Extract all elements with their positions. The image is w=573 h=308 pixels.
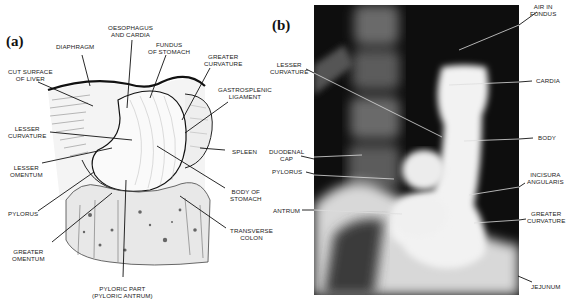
label-duodenal-cap: DUODENAL CAP xyxy=(269,148,304,162)
label-antrum: ANTRUM xyxy=(273,207,300,214)
label-pylorus-b: PYLORUS xyxy=(272,168,302,175)
label-pyloric-part: PYLORIC PART (PYLORIC ANTRUM) xyxy=(92,285,153,299)
label-cardia: CARDIA xyxy=(536,77,560,84)
label-greater-omentum: GREATER OMENTUM xyxy=(12,248,45,262)
label-cut-surface-of-liver: CUT SURFACE OF LIVER xyxy=(8,68,53,82)
label-greater-curvature-b: GREATER CURVATURE xyxy=(527,210,565,224)
label-body-of-stomach: BODY OF STOMACH xyxy=(230,188,262,202)
panel-b-label: (b) xyxy=(272,17,290,34)
label-diaphragm: DIAPHRAGM xyxy=(56,43,94,50)
label-transverse-colon: TRANSVERSE COLON xyxy=(230,227,273,241)
label-greater-curvature-a: GREATER CURVATURE xyxy=(204,53,242,67)
label-pylorus-a: PYLORUS xyxy=(8,210,38,217)
label-air-in-fundus: AIR IN FUNDUS xyxy=(530,3,556,17)
barium-radiograph xyxy=(314,5,519,295)
label-spleen: SPLEEN xyxy=(232,148,257,155)
label-jejunum: JEJUNUM xyxy=(531,283,561,290)
label-oesophagus-and-cardia: OESOPHAGUS AND CARDIA xyxy=(108,24,153,38)
label-body: BODY xyxy=(538,134,556,141)
radiograph-image xyxy=(314,5,519,295)
label-incisura-angularis: INCISURA ANGULARIS xyxy=(527,171,564,185)
label-gastrosplenic-ligament: GASTROSPLENIC LIGAMENT xyxy=(218,86,272,100)
label-lesser-curvature-b: LESSER CURVATURE xyxy=(270,61,308,75)
label-lesser-curvature-a: LESSER CURVATURE xyxy=(8,125,46,139)
label-fundus-of-stomach: FUNDUS OF STOMACH xyxy=(148,41,190,55)
label-lesser-omentum: LESSER OMENTUM xyxy=(10,164,43,178)
